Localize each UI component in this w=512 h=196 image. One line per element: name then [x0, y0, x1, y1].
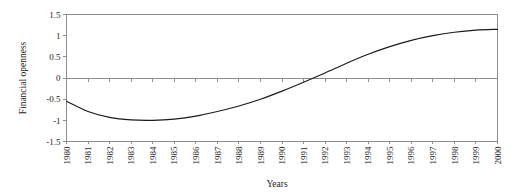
x-tick-label: 1992 — [320, 147, 330, 165]
x-axis-title: Years — [266, 179, 288, 189]
x-tick-label: 1987 — [213, 146, 223, 165]
chart-figure: 1.510.50-0.5-1-1.5 198019811982198319841… — [0, 0, 512, 196]
x-tick-label: 1994 — [363, 146, 373, 165]
y-tick-label: 0 — [56, 73, 61, 83]
x-axis-tick-labels: 1980198119821983198419851986198719881989… — [62, 146, 503, 165]
x-tick-label: 1988 — [234, 146, 244, 165]
x-tick-label: 1984 — [148, 146, 158, 165]
chart-plot-area: 1.510.50-0.5-1-1.5 198019811982198319841… — [0, 0, 512, 196]
tick-marks-group — [63, 15, 498, 145]
x-tick-label: 1999 — [471, 146, 481, 165]
x-tick-label: 1993 — [342, 146, 352, 165]
y-tick-label: 1 — [56, 31, 61, 41]
y-tick-label: -1.5 — [46, 137, 61, 147]
x-tick-label: 1991 — [299, 147, 309, 165]
x-tick-label: 1985 — [169, 146, 179, 165]
y-tick-label: -1 — [53, 116, 61, 126]
x-tick-label: 1986 — [191, 146, 201, 165]
x-tick-label: 1997 — [428, 146, 438, 165]
y-tick-label: 1.5 — [49, 10, 61, 20]
series-line-financial-openness — [67, 29, 498, 120]
y-tick-label: -0.5 — [46, 94, 61, 104]
x-tick-label: 1989 — [256, 146, 266, 165]
x-tick-label: 1996 — [407, 146, 417, 165]
x-tick-label: 1998 — [450, 146, 460, 165]
y-axis-tick-labels: 1.510.50-0.5-1-1.5 — [46, 10, 61, 147]
x-tick-label: 2000 — [493, 146, 503, 165]
y-axis-title: Financial openness — [18, 41, 28, 114]
x-tick-label: 1982 — [105, 147, 115, 165]
x-tick-label: 1995 — [385, 146, 395, 165]
x-tick-label: 1981 — [83, 147, 93, 165]
x-tick-label: 1980 — [62, 146, 72, 165]
x-tick-label: 1990 — [277, 146, 287, 165]
y-tick-label: 0.5 — [49, 52, 61, 62]
x-tick-label: 1983 — [126, 146, 136, 165]
